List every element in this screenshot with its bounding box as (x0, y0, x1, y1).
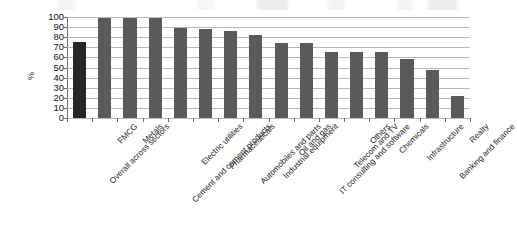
x-tick-mark (243, 118, 244, 122)
y-tick-label: 40 (38, 74, 64, 82)
bar (123, 18, 136, 118)
y-tick-label: 100 (38, 13, 64, 21)
x-category-label: Infrastructure (425, 122, 465, 162)
x-tick-mark (92, 118, 93, 122)
bar (400, 59, 413, 118)
bar (199, 29, 212, 118)
y-tick-mark (64, 98, 67, 99)
x-tick-mark (168, 118, 169, 122)
bar (224, 31, 237, 118)
bar (249, 35, 262, 118)
x-axis-category-labels: Overall across sectorsFMCGMetalsCement a… (0, 122, 476, 243)
bar (451, 96, 464, 118)
x-tick-mark (218, 118, 219, 122)
y-axis-tick-labels: 0102030405060708090100 (38, 17, 64, 118)
y-tick-label: 10 (38, 104, 64, 112)
y-tick-mark (64, 47, 67, 48)
x-tick-mark (394, 118, 395, 122)
y-tick-label: 70 (38, 43, 64, 51)
x-tick-mark (269, 118, 270, 122)
bar (300, 43, 313, 118)
bar (73, 42, 86, 118)
x-tick-mark (369, 118, 370, 122)
y-tick-label: 0 (38, 114, 64, 122)
x-tick-mark (117, 118, 118, 122)
bar (149, 18, 162, 118)
y-tick-mark (64, 17, 67, 18)
y-tick-label: 30 (38, 84, 64, 92)
x-category-label: Overall across sectors (107, 122, 171, 186)
x-tick-mark (445, 118, 446, 122)
x-tick-mark (420, 118, 421, 122)
x-tick-mark (294, 118, 295, 122)
y-tick-mark (64, 27, 67, 28)
x-category-label: Realty (468, 122, 491, 145)
y-tick-mark (64, 78, 67, 79)
x-category-label: FMCG (116, 122, 139, 145)
x-tick-mark (470, 118, 471, 122)
bar (375, 52, 388, 118)
y-tick-label: 60 (38, 53, 64, 61)
y-tick-mark (64, 37, 67, 38)
y-tick-mark (64, 68, 67, 69)
bar (350, 52, 363, 118)
y-tick-mark (64, 88, 67, 89)
y-tick-mark (64, 108, 67, 109)
y-tick-label: 80 (38, 33, 64, 41)
y-tick-mark (64, 57, 67, 58)
bar (325, 52, 338, 118)
x-tick-mark (143, 118, 144, 122)
bar (98, 18, 111, 118)
x-tick-mark (67, 118, 68, 122)
bar (426, 70, 439, 118)
y-tick-label: 50 (38, 64, 64, 72)
y-tick-label: 20 (38, 94, 64, 102)
x-tick-mark (344, 118, 345, 122)
x-tick-mark (193, 118, 194, 122)
x-tick-mark (319, 118, 320, 122)
bar (275, 43, 288, 118)
bar (174, 28, 187, 118)
y-tick-label: 90 (38, 23, 64, 31)
plot-area (67, 17, 470, 118)
